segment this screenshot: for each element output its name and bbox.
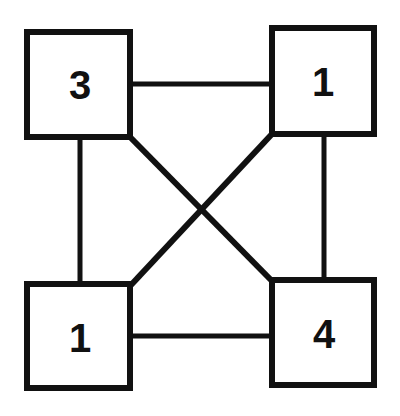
node-label: 3 <box>69 63 91 107</box>
node-top-right: 1 <box>272 28 374 134</box>
node-label: 1 <box>69 316 91 360</box>
node-bottom-right: 4 <box>272 280 374 385</box>
node-label: 4 <box>313 312 336 356</box>
node-top-left: 3 <box>27 32 130 137</box>
node-label: 1 <box>312 60 334 104</box>
graph-diagram: 3 1 1 4 <box>0 0 400 416</box>
node-bottom-left: 1 <box>27 284 130 388</box>
